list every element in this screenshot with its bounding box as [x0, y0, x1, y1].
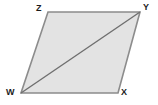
parallelogram-diagram	[0, 0, 158, 105]
vertex-label-w: W	[6, 88, 15, 97]
geometry-figure: Z Y W X	[0, 0, 158, 105]
vertex-label-z: Z	[36, 4, 42, 13]
vertex-label-y: Y	[143, 3, 149, 12]
vertex-label-x: X	[121, 88, 127, 97]
